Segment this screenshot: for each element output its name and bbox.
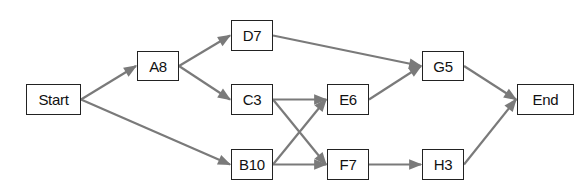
node-a8: A8: [137, 51, 179, 81]
node-label: F7: [340, 156, 357, 173]
node-label: End: [533, 91, 559, 108]
edge-A-to-D: [179, 36, 230, 67]
node-label: G5: [433, 58, 452, 75]
node-label: C3: [243, 91, 262, 108]
edge-D-to-G: [273, 36, 421, 67]
node-label: B10: [239, 156, 265, 173]
node-g5: G5: [422, 51, 464, 81]
node-start: Start: [26, 84, 81, 115]
node-label: H3: [434, 156, 453, 173]
edge-start-to-B: [81, 100, 230, 165]
edge-A-to-C: [179, 66, 230, 100]
node-f7: F7: [327, 149, 369, 180]
node-label: Start: [38, 91, 68, 108]
activity-network-diagram: Start A8 D7 C3 B10 E6 F7 G5 H3 End: [0, 0, 582, 193]
edges-layer: [0, 0, 582, 193]
node-end: End: [517, 84, 574, 115]
edge-H-to-end: [464, 100, 516, 165]
node-label: A8: [149, 58, 167, 75]
node-c3: C3: [231, 84, 273, 115]
node-label: E6: [339, 91, 357, 108]
node-b10: B10: [231, 149, 273, 180]
edge-start-to-A: [81, 66, 136, 100]
node-e6: E6: [327, 84, 369, 115]
node-d7: D7: [231, 20, 273, 51]
node-h3: H3: [422, 149, 464, 180]
edge-G-to-end: [464, 66, 516, 100]
edge-E-to-G: [369, 66, 421, 100]
node-label: D7: [243, 27, 262, 44]
